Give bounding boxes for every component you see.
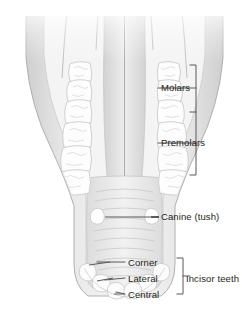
interdental-bars [87, 176, 163, 288]
horse-mandible-illustration [0, 0, 249, 312]
label-premolars: Premolars [161, 138, 205, 148]
label-molars: Molars [161, 83, 190, 93]
left-canine-tooth [90, 208, 104, 224]
label-canine: Canine (tush) [161, 212, 219, 222]
right-canine-tooth [145, 208, 159, 224]
label-central: Central [128, 290, 159, 300]
dental-anatomy-figure: Molars Premolars Canine (tush) Corner La… [0, 0, 249, 312]
label-lateral: Lateral [128, 274, 158, 284]
label-incisor-teeth: Incisor teeth [186, 274, 239, 284]
label-corner: Corner [128, 258, 158, 268]
